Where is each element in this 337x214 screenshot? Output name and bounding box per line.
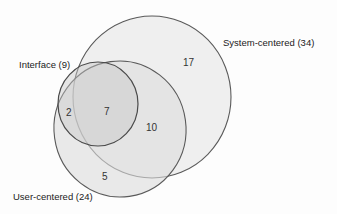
region-all-three: 7 — [104, 106, 110, 117]
interface-circle — [58, 62, 138, 146]
system-centered-label: System-centered (34) — [223, 37, 314, 48]
region-system-only: 17 — [183, 57, 195, 68]
venn-svg: System-centered (34) Interface (9) User-… — [0, 0, 337, 214]
region-user-interface: 2 — [66, 107, 72, 118]
user-centered-label: User-centered (24) — [13, 191, 93, 202]
region-system-user: 10 — [146, 122, 158, 133]
venn-diagram: System-centered (34) Interface (9) User-… — [0, 0, 337, 214]
region-user-only: 5 — [102, 171, 108, 182]
interface-label: Interface (9) — [19, 59, 70, 70]
